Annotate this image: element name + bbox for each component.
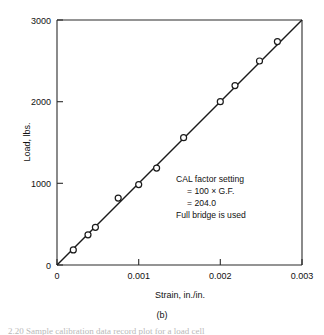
data-point [181, 135, 187, 141]
y-tick-label-3000: 3000 [31, 16, 51, 26]
calibration-chart: 0 1000 2000 3000 0 0.001 0.002 0.003 Loa… [0, 0, 324, 335]
y-tick-label-1000: 1000 [31, 179, 51, 189]
data-point [154, 165, 160, 171]
panel-label: (b) [157, 310, 168, 320]
x-tick-label-0.003: 0.003 [291, 271, 314, 281]
x-axis-title: Strain, in./in. [155, 290, 205, 300]
data-point [232, 83, 238, 89]
data-point [136, 182, 142, 188]
y-axis-title: Load, lbs. [22, 122, 32, 161]
y-tick-label-0: 0 [46, 261, 51, 271]
data-point [274, 39, 280, 45]
annotation-block: CAL factor setting = 100 × G.F. = 204.0 … [176, 174, 246, 220]
annotation-line-2: = 100 × G.F. [187, 186, 234, 196]
annotation-line-4: Full bridge is used [176, 210, 246, 220]
data-point [257, 58, 263, 64]
data-point [85, 232, 91, 238]
x-tick-label-0.002: 0.002 [209, 271, 232, 281]
y-axis-ticks [57, 20, 63, 265]
data-point [115, 195, 121, 201]
x-axis-ticks [57, 259, 302, 265]
x-tick-label-0: 0 [54, 271, 59, 281]
caption-strip: 2.20 Sample calibration data record plot… [0, 328, 324, 335]
data-point [92, 224, 98, 230]
annotation-line-3: = 204.0 [187, 198, 216, 208]
data-point [70, 247, 76, 253]
y-tick-label-2000: 2000 [31, 97, 51, 107]
data-point [217, 99, 223, 105]
figure-panel: 0 1000 2000 3000 0 0.001 0.002 0.003 Loa… [0, 0, 324, 335]
x-tick-label-0.001: 0.001 [127, 271, 150, 281]
annotation-line-1: CAL factor setting [176, 174, 244, 184]
figure-caption: 2.20 Sample calibration data record plot… [8, 328, 204, 335]
